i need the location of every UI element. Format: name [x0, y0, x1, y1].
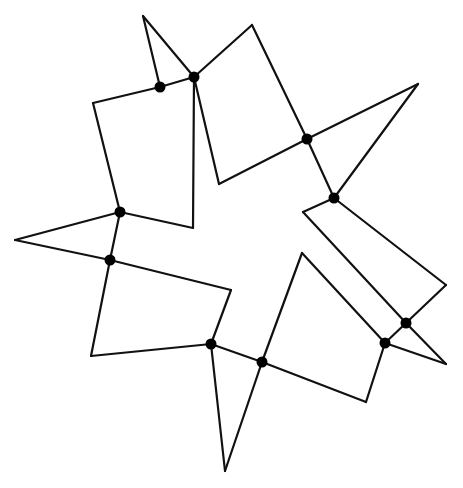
star-linkage-diagram	[0, 0, 463, 488]
edge-H-bottom_left_corner	[91, 344, 211, 356]
edge-right_tip-D	[334, 84, 418, 198]
edge-C-D	[307, 139, 334, 198]
vertex-dot-B	[189, 72, 200, 83]
edge-B-notch_left	[193, 77, 194, 228]
vertex-dot-J	[115, 207, 126, 218]
vertex-dot-D	[329, 193, 340, 204]
edge-notch_right-G	[262, 253, 302, 362]
edge-right_quad_left-E	[303, 212, 406, 323]
edge-bottom_right_corner-G	[262, 362, 366, 402]
edge-F-bottom_right_corner	[366, 343, 385, 402]
edge-C-right_tip	[307, 84, 418, 139]
edge-G-H	[211, 344, 262, 362]
edge-bottom_tip-H	[211, 344, 225, 471]
edge-left_quad_corner-J	[93, 103, 120, 212]
vertex-dot-E	[401, 318, 412, 329]
edge-top_right_corner-C	[252, 25, 307, 139]
edge-J-notch_left	[120, 212, 193, 228]
vertex-dot-H	[206, 339, 217, 350]
edge-left_tip-J	[15, 212, 120, 240]
edge-bottom_left_corner-I	[91, 260, 110, 356]
edge-right_quad_right-E	[406, 285, 446, 323]
vertex-dot-A	[155, 82, 166, 93]
edge-C-notch_upper	[219, 139, 307, 184]
edges-group	[15, 16, 446, 471]
edge-H-notch_lower	[211, 290, 231, 344]
vertex-dot-G	[257, 357, 268, 368]
edge-G-bottom_tip	[225, 362, 262, 471]
edge-notch_lower-I	[110, 260, 231, 290]
edge-I-left_tip	[15, 240, 110, 260]
edge-notch_upper-B	[194, 77, 219, 184]
edge-A-left_quad_corner	[93, 87, 160, 103]
edge-B-top_right_corner	[194, 25, 252, 77]
vertex-dot-F	[380, 338, 391, 349]
edge-notch_right-F	[302, 253, 385, 343]
vertex-dot-C	[302, 134, 313, 145]
vertex-dot-I	[105, 255, 116, 266]
edge-I-J	[110, 212, 120, 260]
edge-D-right_quad_right	[334, 198, 446, 285]
